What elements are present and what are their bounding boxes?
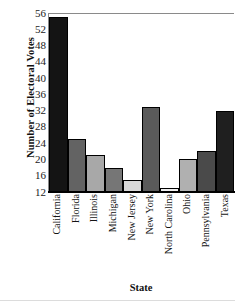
- x-tick-cell: Ohio: [178, 194, 197, 272]
- x-tick-label: Michigan: [108, 194, 118, 232]
- y-tick-label: 48: [20, 40, 46, 51]
- x-tick-cell: Illinois: [85, 194, 104, 272]
- y-tick-label: 32: [20, 105, 46, 116]
- x-axis-line: [48, 191, 235, 193]
- bar-california: [49, 17, 68, 192]
- x-tick-label: Ohio: [182, 194, 192, 214]
- y-axis-tick-labels: 121620242832364044485256: [20, 0, 46, 200]
- plot-area: [48, 13, 234, 192]
- x-tick-label: Illinois: [89, 194, 99, 222]
- y-tick-label: 56: [20, 8, 46, 19]
- x-tick-label: North Carolina: [164, 194, 174, 254]
- x-tick-label: New Jersey: [127, 194, 137, 240]
- bar-new-york: [142, 107, 161, 192]
- bar-michigan: [105, 168, 124, 192]
- x-tick-label: Texas: [220, 194, 230, 217]
- bar-florida: [68, 139, 87, 192]
- y-tick-label: 36: [20, 89, 46, 100]
- x-tick-label: California: [52, 194, 62, 235]
- x-tick-cell: Texas: [215, 194, 234, 272]
- y-tick-label: 44: [20, 56, 46, 67]
- y-tick-label: 28: [20, 121, 46, 132]
- bar-ohio: [179, 159, 198, 192]
- bottom-divider: [0, 300, 235, 301]
- y-tick-label: 24: [20, 138, 46, 149]
- x-tick-cell: Florida: [67, 194, 86, 272]
- bar-pennsylvania: [197, 151, 216, 192]
- x-tick-cell: Pennsylvania: [197, 194, 216, 272]
- y-tick-label: 40: [20, 73, 46, 84]
- y-tick-label: 20: [20, 154, 46, 165]
- x-tick-cell: Michigan: [104, 194, 123, 272]
- x-axis-title: State: [48, 282, 234, 293]
- x-tick-label: Florida: [71, 194, 81, 223]
- electoral-votes-bar-chart: Number of Electoral Votes 12162024283236…: [0, 0, 235, 303]
- bar-texas: [216, 111, 235, 192]
- x-tick-cell: New York: [141, 194, 160, 272]
- y-tick-label: 52: [20, 24, 46, 35]
- y-tick-label: 16: [20, 170, 46, 181]
- x-tick-label: New York: [145, 194, 155, 235]
- x-tick-cell: New Jersey: [122, 194, 141, 272]
- bar-series: [49, 14, 234, 192]
- y-tick-label: 12: [20, 187, 46, 198]
- bar-illinois: [86, 155, 105, 192]
- x-axis-tick-labels: CaliforniaFloridaIllinoisMichiganNew Jer…: [48, 194, 234, 272]
- x-tick-cell: North Carolina: [160, 194, 179, 272]
- x-tick-cell: California: [48, 194, 67, 272]
- x-tick-label: Pennsylvania: [201, 194, 211, 247]
